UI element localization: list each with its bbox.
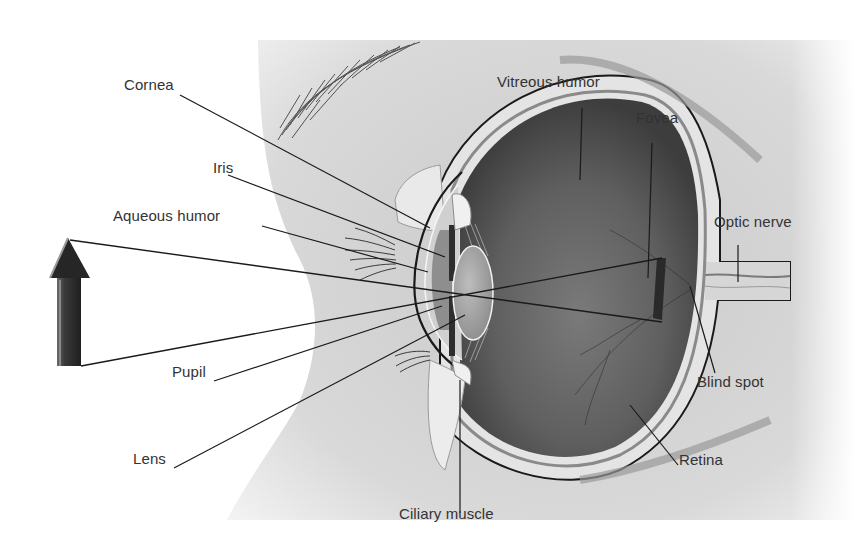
label-fovea: Fovea xyxy=(636,109,678,126)
label-cornea: Cornea xyxy=(124,76,174,93)
label-lens: Lens xyxy=(133,450,166,467)
label-vitreous-humor: Vitreous humor xyxy=(497,73,600,90)
eye-diagram: Cornea Iris Aqueous humor Pupil Lens Cil… xyxy=(0,0,855,558)
label-retina: Retina xyxy=(679,451,723,468)
label-ciliary-muscle: Ciliary muscle xyxy=(399,505,494,522)
label-iris: Iris xyxy=(213,159,233,176)
upright-arrow-object xyxy=(50,238,90,366)
label-pupil: Pupil xyxy=(172,363,206,380)
label-aqueous-humor: Aqueous humor xyxy=(113,207,220,224)
label-blind-spot: Blind spot xyxy=(697,373,764,390)
label-optic-nerve: Optic nerve xyxy=(714,213,792,230)
